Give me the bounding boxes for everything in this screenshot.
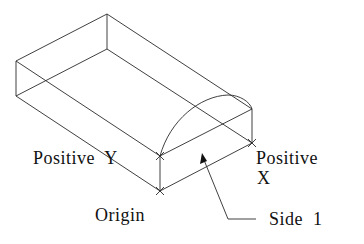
bottom-front-edge bbox=[16, 96, 160, 191]
side-1-label: Side 1 bbox=[269, 209, 323, 229]
leader-line bbox=[204, 160, 256, 219]
top-front-edge bbox=[16, 61, 160, 156]
positive-x-label-line2: X bbox=[257, 168, 271, 188]
top-left-edge bbox=[16, 14, 107, 61]
origin-label: Origin bbox=[95, 205, 145, 225]
side1-bottom-edge bbox=[160, 143, 252, 191]
arrowhead-icon bbox=[200, 153, 207, 164]
positive-x-label-line1: Positive bbox=[256, 148, 318, 168]
side1-top-edge bbox=[160, 109, 252, 156]
back-bottom-right-edge bbox=[107, 49, 252, 143]
labels: Positive Y Positive X Origin Side 1 bbox=[33, 148, 323, 229]
positive-y-label: Positive Y bbox=[33, 148, 118, 168]
arc-curve bbox=[160, 95, 252, 156]
side1-leader bbox=[200, 153, 256, 219]
back-bottom-left-edge bbox=[16, 49, 107, 96]
box-diagram: Positive Y Positive X Origin Side 1 bbox=[0, 0, 364, 244]
